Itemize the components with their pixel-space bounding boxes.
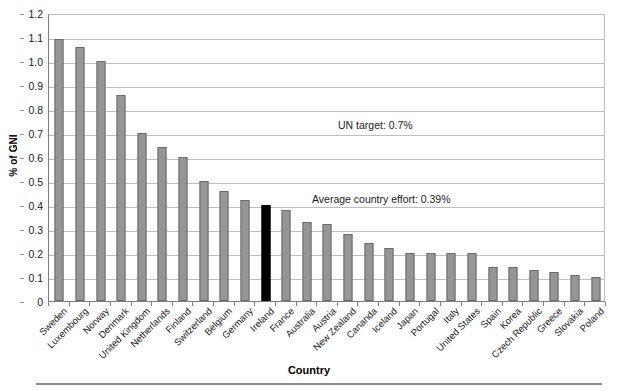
bar-cananda[interactable] bbox=[364, 243, 373, 301]
bar-greece[interactable] bbox=[550, 272, 559, 301]
bar-poland[interactable] bbox=[591, 277, 600, 301]
bar-slot bbox=[276, 15, 297, 301]
bar-united-kingdom[interactable] bbox=[137, 133, 146, 301]
y-tick-mark bbox=[20, 182, 24, 183]
x-axis-label-spain: Spain bbox=[478, 306, 502, 330]
bar-slot bbox=[90, 15, 111, 301]
y-tick-mark bbox=[20, 206, 24, 207]
y-axis-tick-0-4: 0.4 bbox=[28, 201, 43, 212]
bar-slot bbox=[173, 15, 194, 301]
bar-slot bbox=[317, 15, 338, 301]
chart-container: % of GNI 1.21.11.00.90.80.70.60.50.40.30… bbox=[0, 0, 618, 391]
y-axis-tick-0-7: 0.7 bbox=[28, 129, 43, 140]
bar-denmark[interactable] bbox=[117, 95, 126, 301]
y-axis-tick-0-3: 0.3 bbox=[28, 225, 43, 236]
bar-slot bbox=[297, 15, 318, 301]
y-axis-tick-0-6: 0.6 bbox=[28, 153, 43, 164]
y-axis-tick-0: 0 bbox=[37, 297, 43, 308]
bar-slot bbox=[111, 15, 132, 301]
bar-luxembourg[interactable] bbox=[75, 47, 84, 301]
bars-layer bbox=[49, 15, 604, 301]
bar-slot bbox=[132, 15, 153, 301]
bar-slot bbox=[193, 15, 214, 301]
bar-slot bbox=[503, 15, 524, 301]
bar-finland[interactable] bbox=[179, 157, 188, 301]
bar-united-states[interactable] bbox=[467, 253, 476, 301]
bar-slot bbox=[441, 15, 462, 301]
bar-new-zealand[interactable] bbox=[344, 234, 353, 301]
x-axis-tick-labels: SwedenLuxembourgNorwayDenmarkUnited King… bbox=[48, 303, 605, 365]
bar-austria[interactable] bbox=[323, 224, 332, 301]
y-axis-tick-1-1: 1.1 bbox=[28, 33, 43, 44]
bar-slot bbox=[338, 15, 359, 301]
bar-slot bbox=[70, 15, 91, 301]
bar-slot bbox=[523, 15, 544, 301]
y-axis-tick-0-8: 0.8 bbox=[28, 105, 43, 116]
annotation-un-target: UN target: 0.7% bbox=[338, 120, 413, 131]
y-axis-tick-0-9: 0.9 bbox=[28, 81, 43, 92]
bar-norway[interactable] bbox=[96, 61, 105, 301]
x-axis-title-label: Country bbox=[288, 364, 330, 376]
bar-slovakia[interactable] bbox=[571, 275, 580, 301]
bar-slot bbox=[462, 15, 483, 301]
y-tick-mark bbox=[20, 38, 24, 39]
bar-czech-republic[interactable] bbox=[529, 270, 538, 301]
bar-belgium[interactable] bbox=[220, 191, 229, 301]
y-axis-tick-1-2: 1.2 bbox=[28, 9, 43, 20]
y-tick-mark bbox=[20, 254, 24, 255]
y-tick-mark bbox=[20, 110, 24, 111]
y-tick-mark bbox=[20, 14, 24, 15]
bar-slot bbox=[235, 15, 256, 301]
y-axis-tick-0-2: 0.2 bbox=[28, 249, 43, 260]
x-axis-title: Country bbox=[0, 364, 618, 376]
y-tick-mark bbox=[20, 158, 24, 159]
y-tick-mark bbox=[20, 302, 24, 303]
bar-switzerland[interactable] bbox=[199, 181, 208, 301]
bar-slot bbox=[482, 15, 503, 301]
y-axis-tick-0-5: 0.5 bbox=[28, 177, 43, 188]
bar-italy[interactable] bbox=[447, 253, 456, 301]
bar-portugal[interactable] bbox=[426, 253, 435, 301]
bar-spain[interactable] bbox=[488, 267, 497, 301]
y-tick-mark bbox=[20, 62, 24, 63]
bar-slot bbox=[565, 15, 586, 301]
bar-slot bbox=[152, 15, 173, 301]
bar-japan[interactable] bbox=[406, 253, 415, 301]
bar-slot bbox=[49, 15, 70, 301]
y-axis-title-label: % of GNI bbox=[8, 134, 19, 176]
bar-france[interactable] bbox=[282, 210, 291, 301]
plot-area bbox=[48, 14, 605, 302]
y-tick-mark bbox=[20, 134, 24, 135]
x-tick-mark bbox=[605, 302, 606, 306]
bottom-divider bbox=[36, 383, 602, 385]
bar-slot bbox=[214, 15, 235, 301]
bar-ireland[interactable] bbox=[261, 205, 270, 301]
bar-slot bbox=[400, 15, 421, 301]
y-axis-tick-1-0: 1.0 bbox=[28, 57, 43, 68]
bar-slot bbox=[379, 15, 400, 301]
bar-slot bbox=[544, 15, 565, 301]
bar-slot bbox=[358, 15, 379, 301]
y-tick-mark bbox=[20, 86, 24, 87]
bar-slot bbox=[420, 15, 441, 301]
bar-korea[interactable] bbox=[509, 267, 518, 301]
y-axis-tick-labels: 1.21.11.00.90.80.70.60.50.40.30.20.10 bbox=[20, 0, 46, 310]
y-tick-mark bbox=[20, 230, 24, 231]
bar-australia[interactable] bbox=[302, 222, 311, 301]
bar-germany[interactable] bbox=[240, 200, 249, 301]
bar-slot bbox=[255, 15, 276, 301]
bar-iceland[interactable] bbox=[385, 248, 394, 301]
bar-netherlands[interactable] bbox=[158, 147, 167, 301]
bar-slot bbox=[585, 15, 606, 301]
bar-sweden[interactable] bbox=[55, 39, 64, 301]
y-axis-tick-0-1: 0.1 bbox=[28, 273, 43, 284]
y-tick-mark bbox=[20, 278, 24, 279]
annotation-average-country-effort: Average country effort: 0.39% bbox=[312, 194, 451, 205]
